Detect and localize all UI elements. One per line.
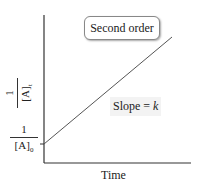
y-axis-label: 1 [A]t [4,78,34,108]
chart-title-badge: Second order [84,16,160,40]
slope-text: Slope = [113,99,153,113]
chart-title: Second order [90,21,154,36]
data-line [44,37,172,144]
y-axis-label-numerator: 1 [4,78,17,108]
slope-variable: k [153,99,158,113]
slope-annotation: Slope = k [110,97,161,116]
x-axis-label: Time [101,169,126,181]
y-intercept-denominator: [A]0 [10,138,38,154]
y-axis-label-denominator: [A]t [18,78,34,108]
y-intercept-numerator: 1 [10,124,38,137]
y-intercept-label: 1 [A]0 [10,124,38,154]
